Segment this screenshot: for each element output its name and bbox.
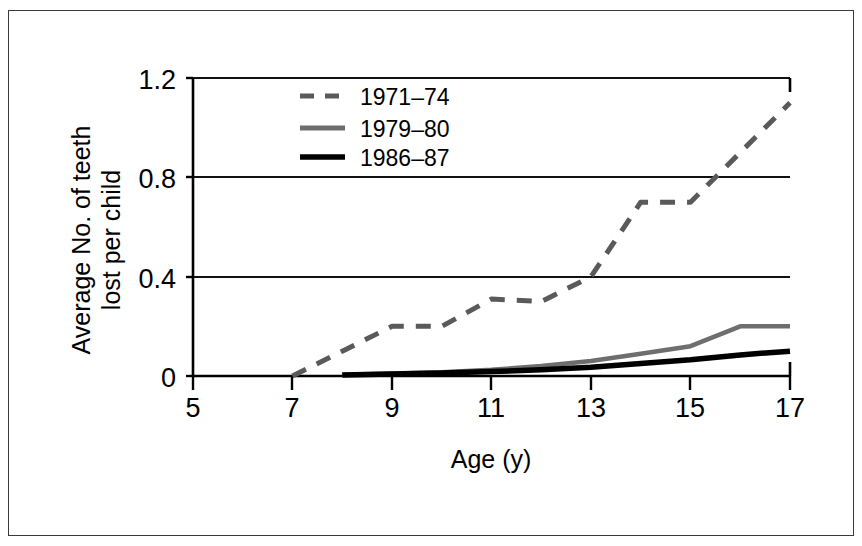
y-axis-title-line2: lost per child — [97, 170, 125, 310]
x-tick-marks — [193, 376, 790, 390]
x-tick-label-9: 9 — [384, 393, 399, 423]
x-tick-label-5: 5 — [185, 393, 200, 423]
x-axis-title: Age (y) — [451, 445, 532, 473]
y-tick-label-0-8: 0.8 — [138, 164, 176, 194]
y-tick-label-0: 0 — [161, 363, 176, 393]
y-tick-label-1-2: 1.2 — [138, 65, 176, 95]
x-tick-label-11: 11 — [477, 393, 505, 423]
x-tick-labels: 5 7 9 11 13 15 17 — [185, 393, 805, 423]
gridlines — [193, 78, 790, 277]
y-tick-label-0-4: 0.4 — [138, 264, 176, 294]
x-tick-label-17: 17 — [775, 393, 805, 423]
data-series — [293, 103, 791, 376]
legend-label-1979-80: 1979–80 — [360, 116, 450, 142]
y-axis-title-line1: Average No. of teeth — [67, 126, 95, 355]
legend-label-1986-87: 1986–87 — [360, 145, 450, 171]
legend: 1971–74 1979–80 1986–87 — [300, 84, 450, 171]
x-tick-label-7: 7 — [284, 393, 299, 423]
axes — [193, 78, 790, 376]
y-tick-labels: 1.2 0.8 0.4 0 — [138, 65, 176, 393]
line-chart: 1.2 0.8 0.4 0 5 7 9 11 13 15 17 1971–74 … — [0, 0, 862, 546]
legend-label-1971-74: 1971–74 — [360, 84, 450, 110]
figure-container: 1.2 0.8 0.4 0 5 7 9 11 13 15 17 1971–74 … — [0, 0, 862, 546]
x-tick-label-13: 13 — [576, 393, 606, 423]
x-tick-label-15: 15 — [675, 393, 705, 423]
